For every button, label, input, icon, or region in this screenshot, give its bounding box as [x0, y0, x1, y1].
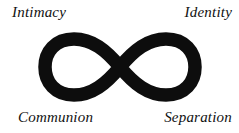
infinity-diagram: Intimacy Identity Communion Separation [0, 0, 239, 133]
label-separation: Separation [164, 110, 232, 125]
infinity-path [45, 39, 195, 95]
label-communion: Communion [18, 110, 93, 125]
label-intimacy: Intimacy [12, 5, 66, 20]
label-identity: Identity [185, 5, 232, 20]
